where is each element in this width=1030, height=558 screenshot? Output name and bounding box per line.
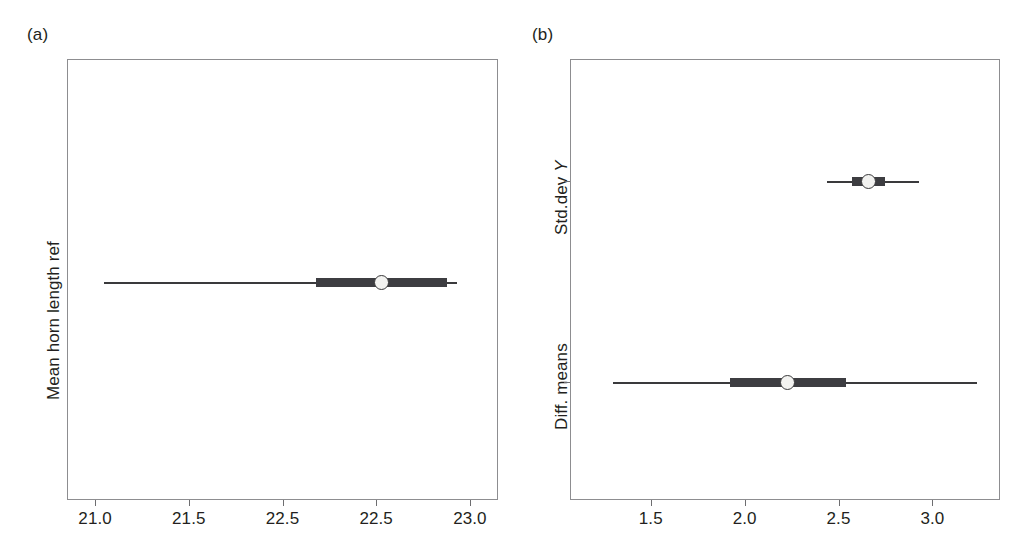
y-tick-mark	[564, 181, 570, 182]
stddev-label-variable: Y	[552, 160, 571, 171]
panel-b-letter: (b)	[532, 25, 553, 45]
interval-marker	[570, 372, 1000, 394]
interval-marker	[67, 272, 498, 294]
point-estimate-marker	[780, 375, 795, 390]
point-estimate-marker	[861, 174, 876, 189]
panel-a-y-axis-label: Mean horn length ref	[44, 241, 64, 400]
figure-canvas: (a) Mean horn length ref 21.021.522.522.…	[0, 0, 1030, 558]
panel-a-intervals-layer	[67, 0, 498, 558]
panel-b-y-axis-label-stddev: Std.dev Y	[552, 160, 572, 235]
panel-b-intervals-layer	[570, 0, 1000, 558]
panel-b-y-axis-label-diffmeans: Diff. means	[552, 343, 572, 430]
y-tick-mark	[564, 382, 570, 383]
interval-marker	[570, 171, 1000, 193]
panel-a-letter: (a)	[27, 25, 48, 45]
point-estimate-marker	[374, 275, 389, 290]
